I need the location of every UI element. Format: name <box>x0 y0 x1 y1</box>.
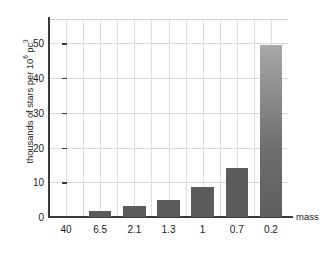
bars-layer <box>49 19 288 217</box>
x-axis-title: mass <box>296 211 319 222</box>
bar <box>123 206 146 217</box>
bar <box>89 211 112 217</box>
bar <box>157 200 180 217</box>
y-tick-label: 10 <box>16 177 44 188</box>
x-tick-label: 1 <box>200 224 206 235</box>
y-tick-label: 30 <box>16 107 44 118</box>
x-tick-label: 0.7 <box>230 224 244 235</box>
x-tick-label: 1.3 <box>162 224 176 235</box>
y-tick-label: 50 <box>16 38 44 49</box>
bar <box>226 168 249 217</box>
bar-chart: thousands of stars per 106 pc3 010203040… <box>0 0 330 261</box>
y-tick-label: 20 <box>16 142 44 153</box>
x-tick-label: 0.2 <box>264 224 278 235</box>
bar <box>260 45 283 217</box>
y-tick-label: 40 <box>16 73 44 84</box>
x-tick-label: 6.5 <box>93 224 107 235</box>
y-axis-ticks: 01020304050 <box>14 0 44 261</box>
x-tick-label: 40 <box>61 224 72 235</box>
y-tick-label: 0 <box>16 212 44 223</box>
bar <box>191 187 214 217</box>
x-tick-label: 2.1 <box>127 224 141 235</box>
